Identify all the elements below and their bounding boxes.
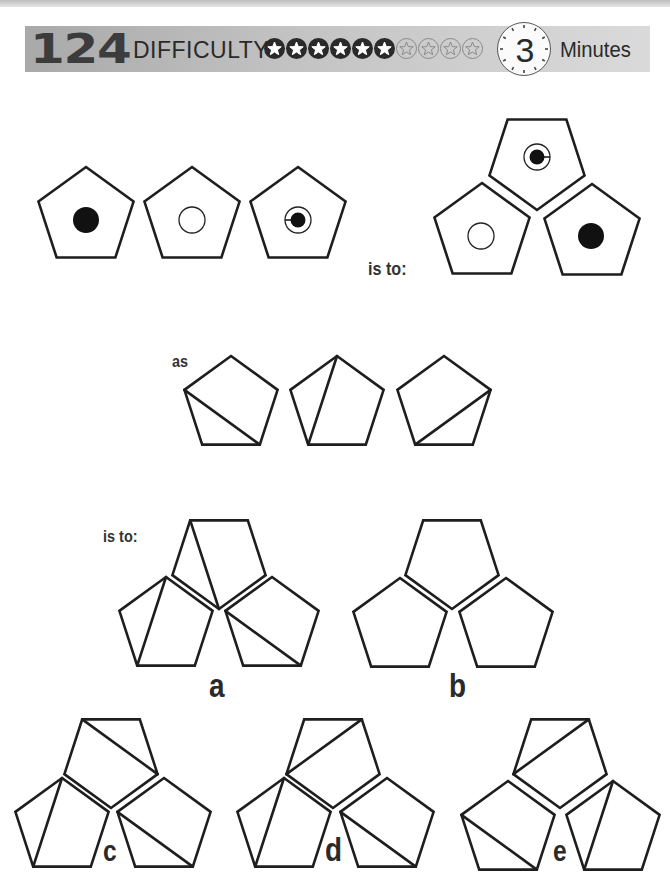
filled-dot-icon — [578, 223, 604, 249]
filled-dot-icon — [73, 207, 99, 233]
cluster-top-pentagon — [489, 120, 584, 210]
pentagon-p3 — [250, 167, 345, 257]
cluster-left-pentagon — [434, 183, 529, 273]
pentagon-p2 — [144, 167, 239, 257]
puzzle-figures — [0, 0, 670, 876]
pentagon-q2 — [290, 356, 383, 445]
